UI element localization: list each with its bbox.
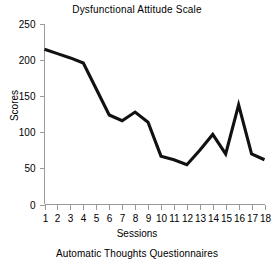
x-tick-label: 18 [260, 213, 272, 224]
x-tick-label: 16 [234, 213, 246, 224]
y-tick-label: 150 [19, 91, 36, 102]
y-tick-label: 50 [24, 163, 36, 174]
x-tick-label: 1 [43, 213, 49, 224]
chart-caption: Automatic Thoughts Questionnaires [0, 248, 274, 259]
x-tick-label: 15 [221, 213, 233, 224]
x-tick-label: 14 [208, 213, 220, 224]
x-tick-label: 5 [94, 213, 100, 224]
y-tick-group: 050100150200250 [19, 19, 45, 211]
y-axis: 050100150200250 [19, 19, 45, 211]
x-tick-label: 9 [146, 213, 152, 224]
x-axis: 123456789101112131415161718 [43, 205, 272, 224]
x-axis-label: Sessions [0, 228, 274, 239]
x-tick-label: 10 [156, 213, 168, 224]
data-series-line [45, 49, 265, 165]
x-tick-label: 4 [81, 213, 87, 224]
x-tick-group: 123456789101112131415161718 [43, 205, 272, 224]
chart-figure: Dysfunctional Attitude Scale 05010015020… [0, 0, 274, 264]
y-axis-label: Scores [9, 76, 20, 136]
plot-area: 050100150200250 123456789101112131415161… [0, 0, 274, 264]
y-tick-label: 200 [19, 55, 36, 66]
y-tick-label: 100 [19, 127, 36, 138]
x-tick-label: 8 [133, 213, 139, 224]
x-tick-label: 6 [107, 213, 113, 224]
x-tick-label: 17 [247, 213, 259, 224]
x-tick-label: 13 [195, 213, 207, 224]
x-tick-label: 11 [169, 213, 180, 224]
x-tick-label: 3 [68, 213, 74, 224]
x-tick-label: 2 [55, 213, 61, 224]
x-tick-label: 7 [120, 213, 126, 224]
x-tick-label: 12 [182, 213, 194, 224]
y-tick-label: 0 [30, 200, 36, 211]
y-tick-label: 250 [19, 19, 36, 30]
